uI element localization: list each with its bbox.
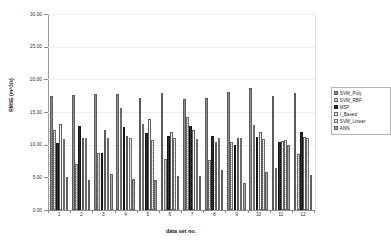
bar[interactable] <box>265 172 268 210</box>
bar-group <box>92 14 114 210</box>
bar-group <box>292 14 314 210</box>
legend-swatch-icon <box>334 112 338 116</box>
legend-label: SVM_RBF <box>340 98 362 103</box>
bar[interactable] <box>154 180 157 210</box>
y-tick-label: 0.00 <box>8 208 42 213</box>
x-tick-label: 1 <box>48 212 70 217</box>
legend-item[interactable]: SVM_RBF <box>334 97 388 103</box>
legend-label: I_Based <box>340 112 357 117</box>
legend-label: ANN <box>340 126 350 131</box>
legend-item[interactable]: M5P <box>334 104 388 110</box>
legend-item[interactable]: I_Based <box>334 111 388 117</box>
x-axis-ticks: 123456789101112 <box>48 212 314 217</box>
legend-swatch-icon <box>334 105 338 109</box>
x-tick-label: 2 <box>70 212 92 217</box>
x-tick-label: 7 <box>181 212 203 217</box>
legend-item[interactable]: ANN <box>334 125 388 131</box>
x-tick-label: 8 <box>203 212 225 217</box>
y-axis-title: RMSE (m^3/s) <box>8 40 14 150</box>
x-tick-label: 5 <box>137 212 159 217</box>
bar[interactable] <box>132 179 135 210</box>
x-tick-label: 4 <box>115 212 137 217</box>
legend-swatch-icon <box>334 119 338 123</box>
bar-group <box>225 14 247 210</box>
y-tick-label: 5.00 <box>8 175 42 180</box>
legend-swatch-icon <box>334 91 338 95</box>
bar-group <box>270 14 292 210</box>
bar-group <box>248 14 270 210</box>
legend-label: M5P <box>340 105 350 110</box>
bar-group <box>48 14 70 210</box>
bar[interactable] <box>243 183 246 210</box>
bar[interactable] <box>287 145 290 210</box>
bar-group <box>70 14 92 210</box>
legend-label: SVM_Poly <box>340 91 362 96</box>
bar[interactable] <box>110 174 113 210</box>
x-tick-label: 11 <box>270 212 292 217</box>
bar[interactable] <box>177 176 180 210</box>
bar-groups <box>48 14 314 210</box>
y-tick-label: 30.00 <box>8 12 42 17</box>
x-tick-label: 9 <box>225 212 247 217</box>
bar-group <box>159 14 181 210</box>
x-tick-label: 12 <box>292 212 314 217</box>
bar-group <box>137 14 159 210</box>
bar[interactable] <box>66 177 69 210</box>
x-tick-label: 10 <box>248 212 270 217</box>
x-axis-title: data set no. <box>48 228 314 234</box>
x-tick-mark <box>314 210 315 213</box>
legend-label: SVM_Linear <box>340 119 366 124</box>
bar[interactable] <box>199 176 202 210</box>
bar[interactable] <box>310 175 313 210</box>
x-tick-label: 3 <box>92 212 114 217</box>
bar[interactable] <box>88 180 91 210</box>
legend-item[interactable]: SVM_Poly <box>334 90 388 96</box>
bar-group <box>181 14 203 210</box>
bar-group <box>115 14 137 210</box>
bar[interactable] <box>221 170 224 211</box>
legend-swatch-icon <box>334 126 338 130</box>
legend-swatch-icon <box>334 98 338 102</box>
x-tick-label: 6 <box>159 212 181 217</box>
chart-legend: SVM_PolySVM_RBFM5PI_BasedSVM_LinearANN <box>331 87 391 135</box>
plot-frame-right <box>315 15 316 211</box>
bar-group <box>203 14 225 210</box>
legend-item[interactable]: SVM_Linear <box>334 118 388 124</box>
